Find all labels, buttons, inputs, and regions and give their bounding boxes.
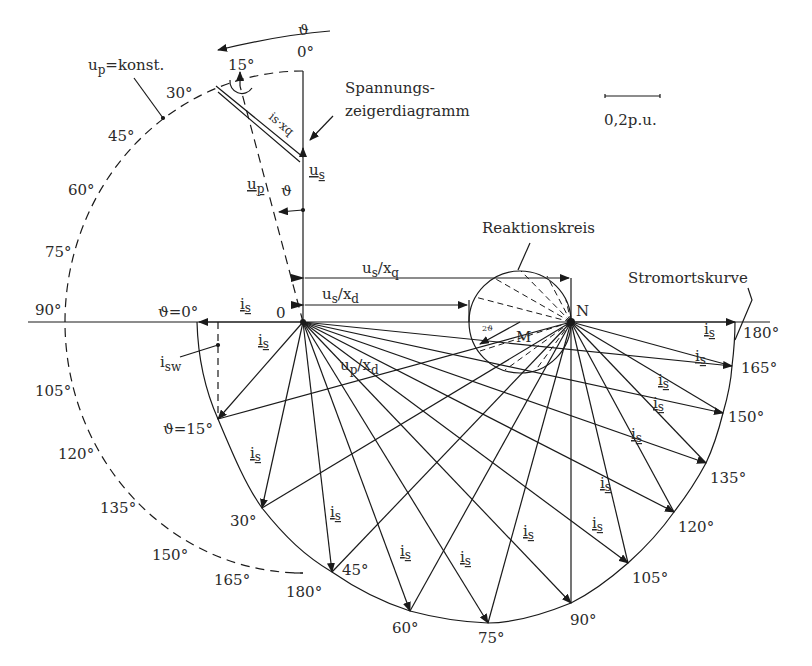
svg-text:135°: 135° — [100, 499, 136, 517]
svg-text:is: is — [460, 548, 471, 568]
svg-text:N: N — [576, 302, 589, 320]
svg-text:is: is — [631, 425, 642, 445]
svg-text:2ϑ: 2ϑ — [482, 324, 493, 333]
svg-text:135°: 135° — [710, 469, 746, 487]
svg-text:is: is — [695, 347, 706, 367]
svg-text:is: is — [523, 522, 534, 542]
svg-text:180°: 180° — [286, 583, 322, 601]
svg-text:is: is — [240, 295, 251, 315]
svg-text:180°: 180° — [743, 324, 779, 342]
svg-text:is: is — [653, 394, 664, 414]
svg-text:up/xd: up/xd — [340, 356, 379, 377]
svg-text:ϑ: ϑ — [298, 21, 309, 39]
svg-text:105°: 105° — [35, 382, 71, 400]
svg-text:0°: 0° — [297, 43, 314, 61]
svg-text:is: is — [400, 542, 411, 562]
svg-text:60°: 60° — [68, 181, 95, 199]
svg-text:isw: isw — [160, 353, 182, 374]
svg-text:90°: 90° — [35, 301, 62, 319]
svg-text:is: is — [592, 514, 603, 534]
svg-text:up: up — [247, 175, 265, 196]
svg-text:165°: 165° — [741, 359, 777, 377]
svg-text:us/xq: us/xq — [362, 259, 399, 280]
phasor-diagram: Spannungs- zeigerdiagramm 0,2p.u. Reakti… — [0, 0, 812, 666]
svg-text:165°: 165° — [214, 571, 250, 589]
spannungs-label: Spannungs- — [345, 79, 435, 97]
svg-text:is: is — [658, 371, 669, 391]
svg-text:M: M — [516, 328, 531, 346]
svg-text:150°: 150° — [152, 546, 188, 564]
svg-text:is: is — [330, 503, 341, 523]
stromortskurve-label: Stromortskurve — [628, 269, 748, 287]
zeigerdiagramm-label: zeigerdiagramm — [345, 102, 470, 120]
svg-text:is: is — [258, 331, 269, 351]
scale-bar — [605, 94, 660, 98]
svg-text:45°: 45° — [342, 561, 369, 579]
svg-text:90°: 90° — [570, 611, 597, 629]
svg-text:60°: 60° — [392, 619, 419, 637]
svg-text:is: is — [250, 444, 261, 464]
svg-text:ϑ=0°: ϑ=0° — [158, 303, 198, 321]
svg-text:us/xd: us/xd — [322, 285, 359, 306]
svg-text:120°: 120° — [678, 518, 714, 536]
svg-text:45°: 45° — [108, 127, 135, 145]
diagram-canvas: Spannungs- zeigerdiagramm 0,2p.u. Reakti… — [0, 0, 812, 666]
reaktionskreis-label: Reaktionskreis — [482, 219, 595, 237]
svg-text:75°: 75° — [478, 629, 505, 647]
svg-text:105°: 105° — [632, 569, 668, 587]
svg-text:up=konst.: up=konst. — [88, 56, 164, 77]
svg-text:30°: 30° — [166, 84, 193, 102]
svg-text:is: is — [704, 320, 715, 340]
svg-text:0: 0 — [276, 304, 286, 322]
svg-text:150°: 150° — [728, 408, 764, 426]
svg-text:ϑ=15°: ϑ=15° — [163, 420, 213, 438]
svg-text:120°: 120° — [58, 445, 94, 463]
svg-text:75°: 75° — [45, 243, 72, 261]
svg-text:us: us — [309, 161, 325, 182]
svg-text:ϑ: ϑ — [281, 182, 292, 200]
svg-text:30°: 30° — [230, 512, 257, 530]
svg-text:15°: 15° — [228, 56, 255, 74]
scale-label: 0,2p.u. — [604, 111, 657, 129]
svg-text:is·xq: is·xq — [266, 110, 297, 139]
